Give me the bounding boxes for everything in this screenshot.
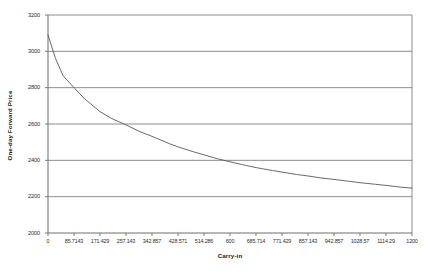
y-tick-label-2800: 2800 [14, 84, 40, 90]
y-tick-label-3200: 3200 [14, 12, 40, 18]
x-axis-title: Carry-in [48, 252, 412, 259]
chart-container: One-day Forward Price 200022002400260028… [0, 0, 428, 275]
y-tick-label-2000: 2000 [14, 230, 40, 236]
y-tick-label-2200: 2200 [14, 193, 40, 199]
y-tick-label-3000: 3000 [14, 48, 40, 54]
chart-plot-svg [0, 0, 428, 275]
x-tick-label-14: 1200 [395, 238, 428, 244]
y-tick-label-2400: 2400 [14, 157, 40, 163]
y-tick-label-2600: 2600 [14, 121, 40, 127]
